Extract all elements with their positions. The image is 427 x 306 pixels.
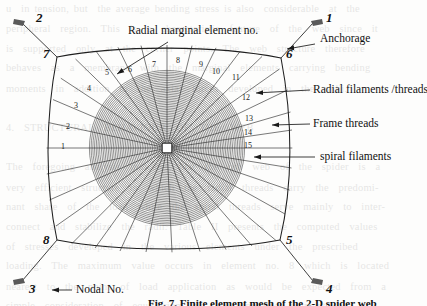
leader-frame-threads bbox=[272, 124, 310, 125]
anchorage-thread-4-5 bbox=[280, 240, 313, 281]
anchorage-thread-3-8 bbox=[22, 240, 57, 281]
figure-page: u in tension, but the average bending st… bbox=[0, 0, 427, 306]
frame-thread-right bbox=[280, 58, 290, 240]
frame-thread-bottom bbox=[57, 240, 280, 249]
anchorage-pad-1 bbox=[311, 19, 323, 26]
anchorage-pad-4 bbox=[311, 278, 323, 285]
web-hub bbox=[162, 143, 172, 153]
frame-thread-top bbox=[57, 48, 281, 58]
anchorage-pad-3 bbox=[13, 278, 25, 285]
spider-web-diagram bbox=[0, 0, 427, 306]
anchorage-pad-2 bbox=[13, 19, 25, 26]
leader-radial-filaments bbox=[256, 90, 310, 93]
anchorage-thread-1-6 bbox=[281, 23, 313, 58]
anchorage-thread-2-7 bbox=[22, 23, 57, 57]
frame-thread-left bbox=[48, 57, 57, 240]
leader-radial-marginal bbox=[117, 42, 168, 74]
figure-caption: Fig. 7. Finite element mesh of the 2-D s… bbox=[148, 297, 377, 306]
